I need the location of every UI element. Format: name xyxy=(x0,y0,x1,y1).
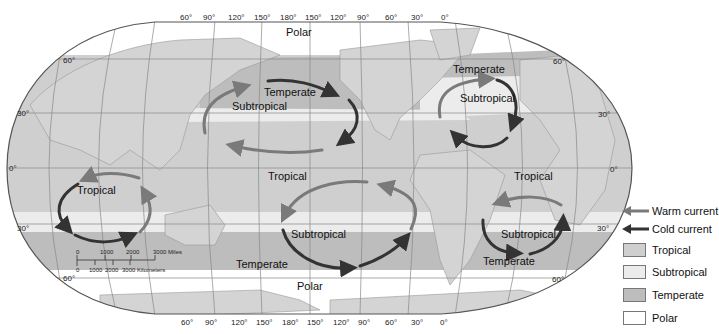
tropical-swatch xyxy=(623,243,646,257)
lon-tick: 120° xyxy=(228,13,245,22)
lon-tick: 120° xyxy=(231,318,248,327)
legend-label: Subtropical xyxy=(652,266,707,278)
lon-tick: 30° xyxy=(411,318,423,327)
subtropical-swatch xyxy=(623,265,646,279)
legend-warm-current: Warm current xyxy=(622,205,718,217)
lat-tick: 30° xyxy=(17,224,29,233)
lon-tick: 150° xyxy=(307,318,324,327)
legend-polar: Polar xyxy=(622,311,678,325)
zone-label-tropical-ind: Tropical xyxy=(77,184,116,196)
polar-swatch xyxy=(623,311,646,325)
lon-tick: 60° xyxy=(385,318,397,327)
lon-tick: 90° xyxy=(203,13,215,22)
cold-current-arrow-icon xyxy=(622,224,649,234)
lat-tick: 30° xyxy=(597,224,609,233)
zone-label-subtropical-npac: Subtropical xyxy=(232,100,287,112)
zone-label-temperate-npac: Temperate xyxy=(264,86,316,98)
lat-tick: 0° xyxy=(610,165,618,174)
lon-tick: 120° xyxy=(333,318,350,327)
lat-tick: 60° xyxy=(63,274,75,283)
scale-km-3000: 3000 Kilometers xyxy=(122,267,165,273)
lat-tick: 60° xyxy=(552,275,564,284)
legend-label: Warm current xyxy=(652,205,718,217)
warm-current-arrow-icon xyxy=(622,206,649,216)
temperate-swatch xyxy=(623,288,646,302)
scale-km-2000: 2000 xyxy=(105,267,118,273)
scale-miles-1000: 1000 xyxy=(100,249,113,255)
lon-tick: 60° xyxy=(181,318,193,327)
lon-tick: 90° xyxy=(205,318,217,327)
lon-tick: 0° xyxy=(441,13,449,22)
legend-label: Temperate xyxy=(652,289,704,301)
lat-tick: 30° xyxy=(598,110,610,119)
legend-cold-current: Cold current xyxy=(622,223,712,235)
legend-label: Polar xyxy=(652,312,678,324)
lon-tick: 180° xyxy=(280,13,297,22)
zone-label-polar-south: Polar xyxy=(297,280,323,292)
lat-tick: 0° xyxy=(9,164,17,173)
scale-miles-0: 0 xyxy=(76,249,79,255)
lon-tick: 60° xyxy=(385,13,397,22)
zone-label-subtropical-satl: Subtropical xyxy=(501,228,556,240)
lon-tick: 150° xyxy=(256,318,273,327)
lon-tick: 30° xyxy=(411,13,423,22)
lat-tick: 60° xyxy=(63,56,75,65)
zone-label-tropical-atl: Tropical xyxy=(514,170,553,182)
zone-label-subtropical-spac: Subtropical xyxy=(291,228,346,240)
scale-km-1000: 1000 xyxy=(89,267,102,273)
zone-label-tropical-pac: Tropical xyxy=(268,170,307,182)
legend-subtropical: Subtropical xyxy=(622,265,707,279)
lat-tick: 60° xyxy=(553,57,565,66)
scale-km-0: 0 xyxy=(76,267,79,273)
zone-label-temperate-natl: Temperate xyxy=(453,63,505,75)
scale-miles-2000: 2000 xyxy=(126,249,139,255)
zone-label-polar-north: Polar xyxy=(286,26,312,38)
lon-tick: 150° xyxy=(254,13,271,22)
lon-tick: 120° xyxy=(330,13,347,22)
legend-tropical: Tropical xyxy=(622,243,691,257)
lon-tick: 90° xyxy=(358,318,370,327)
lon-tick: 60° xyxy=(180,13,192,22)
legend-temperate: Temperate xyxy=(622,288,704,302)
scale-miles-3000: 3000 Miles xyxy=(153,249,182,255)
lon-tick: 150° xyxy=(305,13,322,22)
zone-label-temperate-spac: Temperate xyxy=(236,258,288,270)
lon-tick: 90° xyxy=(357,13,369,22)
legend-label: Tropical xyxy=(652,244,691,256)
zone-label-temperate-satl: Temperate xyxy=(483,255,535,267)
lat-tick: 30° xyxy=(17,109,29,118)
lon-tick: 0° xyxy=(440,318,448,327)
legend-label: Cold current xyxy=(652,223,712,235)
lon-tick: 180° xyxy=(282,318,299,327)
zone-label-subtropical-natl: Subtropical xyxy=(460,92,515,104)
